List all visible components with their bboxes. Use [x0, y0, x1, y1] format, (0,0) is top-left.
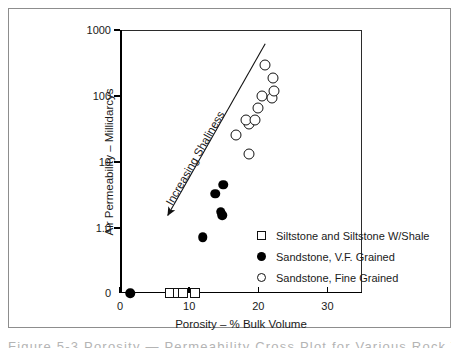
legend-item-sandstone-vf: Sandstone, V.F. Grained	[253, 248, 429, 265]
data-point	[260, 59, 271, 70]
data-point	[243, 149, 254, 160]
data-point	[178, 288, 188, 298]
clipped-header-text	[8, 0, 98, 8]
x-tick-label: 20	[252, 300, 264, 312]
data-point	[190, 288, 200, 298]
legend-item-siltstone: Siltstone and Siltstone W/Shale	[253, 227, 429, 244]
data-point	[218, 180, 228, 190]
clipped-caption: Figure 5-3 Porosity — Permeability Cross…	[8, 339, 451, 348]
legend-item-sandstone-fine: Sandstone, Fine Grained	[253, 269, 429, 286]
y-tick-label: 1000	[87, 24, 111, 36]
data-point	[249, 114, 260, 125]
y-axis-title: Air Permeability – Millidarcys	[103, 88, 115, 235]
legend: Siltstone and Siltstone W/Shale Sandston…	[253, 227, 429, 290]
data-point	[218, 211, 228, 221]
data-point	[231, 129, 242, 140]
legend-label: Sandstone, V.F. Grained	[276, 251, 395, 263]
data-point	[269, 85, 280, 96]
data-point	[211, 189, 221, 199]
x-tick-label: 10	[183, 300, 195, 312]
figure-root: 1000100101.00 0102030 Air Permeability –…	[0, 0, 459, 348]
open-square-icon	[253, 231, 269, 240]
data-point	[252, 102, 263, 113]
plot-area: 1000100101.00 0102030 Air Permeability –…	[120, 30, 362, 293]
legend-label: Sandstone, Fine Grained	[276, 272, 398, 284]
x-tick-label: 30	[321, 300, 333, 312]
legend-label: Siltstone and Siltstone W/Shale	[276, 230, 429, 242]
filled-circle-icon	[253, 252, 269, 261]
data-point	[268, 72, 279, 83]
x-axis-title: Porosity – % Bulk Volume	[175, 318, 307, 330]
data-point	[198, 233, 208, 243]
data-point	[126, 288, 136, 298]
open-circle-icon	[253, 273, 269, 282]
y-zero-label: 0	[105, 287, 111, 299]
x-tick-label: 0	[117, 300, 123, 312]
